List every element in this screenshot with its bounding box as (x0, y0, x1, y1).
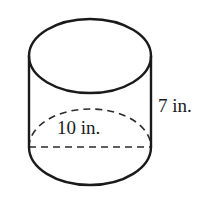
top-rim-ellipse (29, 19, 151, 93)
cylinder-figure: 10 in. 7 in. (0, 0, 208, 205)
diameter-label: 10 in. (57, 118, 100, 137)
height-label: 7 in. (158, 96, 192, 115)
